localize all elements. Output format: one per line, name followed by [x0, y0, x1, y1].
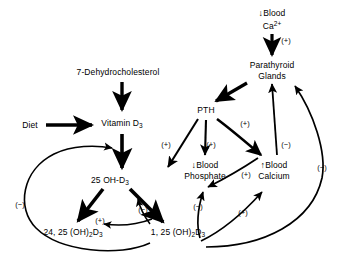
node-label-subscript: 3: [139, 122, 143, 129]
node-label-text-2: Ca: [263, 20, 274, 30]
node-diet: Diet: [22, 120, 38, 130]
node-label-text: 1, 25 (OH): [151, 227, 192, 237]
node-blood-phosphate: ↓Blood Phosphate: [184, 160, 226, 181]
sign-pth-to-1-25: (+): [161, 141, 170, 149]
node-label-text: 7-Dehydrocholesterol: [77, 67, 160, 77]
node-label-text: Blood: [263, 8, 285, 18]
node-label-subscript-2: 3: [99, 231, 103, 238]
node-label-text: Blood: [196, 160, 218, 170]
node-blood-calcium-high: ↑Blood Calcium: [258, 160, 289, 181]
node-7-dehydrocholesterol: 7-Dehydrocholesterol: [77, 67, 160, 77]
node-label-superscript: 2+: [274, 19, 282, 26]
node-label-text: 25 OH-D: [91, 175, 125, 185]
node-pth: PTH: [197, 105, 214, 115]
node-label-text: Diet: [22, 120, 38, 130]
sign-calcium-to-parathyroid: (−): [281, 141, 290, 149]
sign-1-25-to-phosphate: (−): [193, 203, 202, 211]
sign-calcium-to-25oh: (+): [241, 171, 250, 179]
sign-feedback-left: (−): [15, 201, 24, 209]
node-blood-calcium-low: ↓Blood Ca2+: [259, 8, 286, 31]
sign-pth-to-calcium: (+): [240, 120, 249, 128]
arrow-pth-to-blood-phosphate: [205, 120, 206, 155]
node-label-text: Blood: [265, 160, 287, 170]
node-25-oh-d3: 25 OH-D3: [91, 175, 129, 188]
arrow-blood-calcium-to-parathyroid: [272, 84, 277, 155]
sign-feedback-right: (−): [317, 164, 326, 172]
sign-pth-to-phosphate: (+): [206, 141, 215, 149]
node-parathyroid-glands: Parathyroid Glands: [250, 60, 295, 81]
node-1-25-oh2-d3: 1, 25 (OH)2D3: [151, 227, 205, 240]
node-line-1: Parathyroid: [250, 60, 295, 71]
node-line-1: ↓Blood: [184, 160, 226, 171]
node-line-1: ↑Blood: [258, 160, 289, 171]
sign-1-25-to-calcium: (+): [238, 209, 247, 217]
sign-ca-to-parathyroid: (+): [281, 37, 290, 45]
node-line-2: Calcium: [258, 170, 289, 181]
node-line-1: ↓Blood: [259, 8, 286, 19]
vitamin-d-regulation-diagram: 7-Dehydrocholesterol Diet Vitamin D3 25 …: [0, 0, 340, 265]
node-label-text: 24, 25 (OH): [43, 227, 89, 237]
node-label-subscript: 3: [125, 179, 129, 186]
node-label-subscript-2: 3: [201, 231, 205, 238]
arrow-parathyroid-to-pth: [216, 83, 247, 101]
node-line-2: Phosphate: [184, 170, 226, 181]
sign-24-25-stimulate: (+): [95, 217, 104, 225]
node-line-2: Glands: [250, 70, 295, 81]
node-label-text: PTH: [197, 105, 214, 115]
node-24-25-oh2-d3: 24, 25 (OH)2D3: [43, 227, 102, 240]
sign-1-25-inhibit: (−): [138, 206, 147, 214]
arrow-1-25-to-24-25-stimulate: [104, 219, 152, 225]
node-vitamin-d3: Vitamin D3: [101, 118, 142, 131]
arrow-1-25-to-blood-calcium: [201, 192, 262, 241]
arrow-pth-to-blood-calcium: [217, 119, 261, 155]
node-line-2: Ca2+: [259, 18, 286, 31]
node-label-text: Vitamin D: [101, 118, 139, 128]
